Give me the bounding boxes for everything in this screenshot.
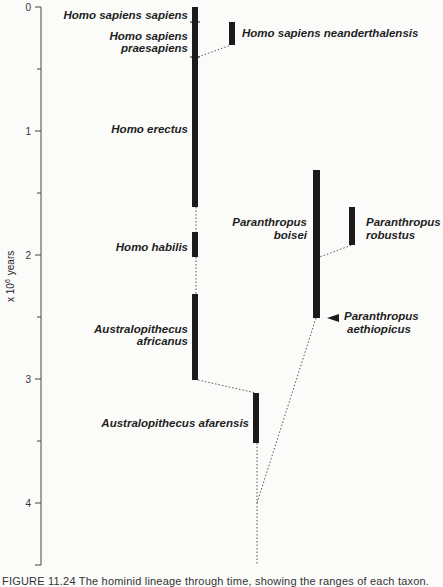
tick-3: 3 <box>25 374 31 385</box>
label-homo-sapiens-praesapiens-1: Homo sapiens <box>109 30 188 42</box>
label-paranthropus-robustus-2: robustus <box>366 229 415 241</box>
y-tick-labels: 0 1 2 3 4 <box>25 2 31 509</box>
label-australopithecus-africanus-1: Australopithecus <box>93 323 188 335</box>
bar-australopithecus-afarensis <box>253 393 259 443</box>
label-homo-sapiens-praesapiens-2: praesapiens <box>120 42 188 54</box>
y-axis-label: x 106years <box>4 251 16 302</box>
label-paranthropus-aethiopicus-2: aethiopicus <box>347 323 411 335</box>
label-paranthropus-aethiopicus-1: Paranthropus <box>344 310 419 322</box>
label-homo-erectus: Homo erectus <box>111 123 188 135</box>
label-homo-sapiens-neanderthalensis: Homo sapiens neanderthalensis <box>242 27 418 39</box>
bar-paranthropus-boisei <box>313 170 320 318</box>
y-axis <box>35 7 41 565</box>
bar-paranthropus-robustus <box>349 207 355 245</box>
label-homo-sapiens-sapiens: Homo sapiens sapiens <box>63 9 188 21</box>
bar-homo-main <box>192 7 198 207</box>
label-homo-habilis: Homo habilis <box>116 241 188 253</box>
bar-australopithecus-africanus <box>192 294 198 380</box>
tick-2: 2 <box>25 250 31 261</box>
label-paranthropus-boisei-1: Paranthropus <box>232 216 307 228</box>
label-paranthropus-boisei-2: boisei <box>274 229 308 241</box>
taxon-labels: Homo sapiens sapiens Homo sapiens praesa… <box>63 9 440 429</box>
bar-homo-sapiens-neanderthalensis <box>229 22 235 45</box>
tick-0: 0 <box>25 2 31 13</box>
tick-1: 1 <box>25 126 31 137</box>
figure-caption: FIGURE 11.24 The hominid lineage through… <box>2 575 443 587</box>
tick-4: 4 <box>25 498 31 509</box>
label-australopithecus-africanus-2: africanus <box>137 335 188 347</box>
arrow-icon <box>327 314 339 322</box>
bar-homo-habilis <box>192 232 198 257</box>
svg-text:x 106years: x 106years <box>4 251 16 302</box>
label-paranthropus-robustus-1: Paranthropus <box>366 216 441 228</box>
lineage-connectors <box>196 45 352 565</box>
label-australopithecus-afarensis: Australopithecus afarensis <box>100 417 249 429</box>
